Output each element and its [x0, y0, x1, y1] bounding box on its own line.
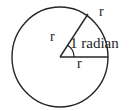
angle-label: 1 radian — [70, 36, 119, 51]
circle-radian-figure: r r r 1 radian — [0, 0, 135, 111]
radius-label-horizontal: r — [77, 57, 82, 71]
radius-label-slanted: r — [50, 30, 55, 44]
figure-canvas — [0, 0, 135, 111]
radius-label-top: r — [99, 5, 104, 19]
